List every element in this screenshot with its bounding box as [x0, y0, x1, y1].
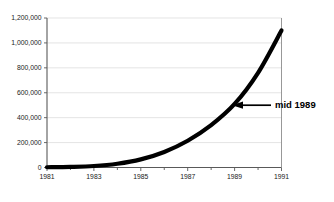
y-tick-label: 1,200,000 [11, 14, 41, 21]
annotation-label: mid 1989 [275, 99, 316, 110]
x-tick-label: 1989 [227, 173, 242, 180]
growth-line-chart: 0200,000400,000600,000800,0001,000,0001,… [0, 0, 334, 202]
y-tick-label: 600,000 [17, 89, 42, 96]
y-tick-label: 0 [38, 164, 42, 171]
y-tick-label: 800,000 [17, 64, 42, 71]
y-tick-label: 1,000,000 [11, 39, 41, 46]
y-tick-label: 400,000 [17, 114, 42, 121]
y-tick-label: 200,000 [17, 139, 42, 146]
x-tick-label: 1991 [274, 173, 289, 180]
x-tick-label: 1983 [86, 173, 101, 180]
x-tick-label: 1987 [180, 173, 195, 180]
chart-container: 0200,000400,000600,000800,0001,000,0001,… [0, 0, 334, 202]
x-tick-label: 1985 [133, 173, 148, 180]
x-tick-label: 1981 [39, 173, 54, 180]
